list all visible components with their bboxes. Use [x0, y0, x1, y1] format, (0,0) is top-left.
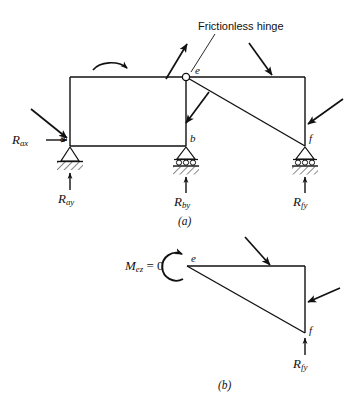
reaction-label-rfy-a: Rfy — [293, 195, 307, 210]
reaction-label-rax: Rax — [12, 133, 28, 148]
mez-symbol: M — [125, 258, 136, 273]
rfy-subscript-a: fy — [301, 200, 307, 210]
caption-a: (a) — [178, 216, 191, 228]
moment-arc-ez — [162, 253, 183, 281]
applied-moment-couple-arc — [93, 63, 127, 70]
rby-symbol: R — [174, 194, 182, 209]
roller-support-b — [173, 147, 199, 175]
rby-subscript: by — [182, 200, 190, 210]
frictionless-hinge-icon — [182, 73, 189, 80]
point-label-b: b — [190, 133, 196, 144]
ray-subscript: ay — [66, 197, 74, 207]
point-label-a: a — [60, 133, 66, 144]
load-arrow-b-right — [308, 288, 340, 302]
frictionless-hinge-label: Frictionless hinge — [198, 21, 284, 32]
rax-subscript: ax — [20, 138, 28, 148]
point-label-e-b: e — [191, 253, 196, 264]
mez-value: = 0 — [146, 258, 163, 273]
diagram-b-structure — [187, 266, 305, 333]
rfy-symbol-a: R — [293, 194, 301, 209]
reaction-label-rby: Rby — [174, 195, 190, 210]
point-label-f-a: f — [309, 133, 312, 144]
load-arrow-b-top — [245, 237, 270, 265]
roller-support-f — [292, 147, 318, 175]
point-label-e-a: e — [195, 65, 200, 76]
caption-b: (b) — [218, 380, 231, 392]
figure-page: Frictionless hinge e a b f Rax Ray Rby R… — [0, 0, 357, 403]
rax-symbol: R — [12, 132, 20, 147]
load-arrow-vertical-member — [186, 92, 209, 123]
load-arrow-right-edge — [308, 99, 343, 124]
member-b-diagonal — [187, 266, 305, 333]
rfy-subscript-b: fy — [301, 362, 307, 372]
moment-label-mez: Mez = 0 — [125, 259, 164, 274]
diagram-a-structure — [70, 77, 305, 146]
ray-symbol: R — [58, 191, 66, 206]
rfy-symbol-b: R — [293, 356, 301, 371]
member-diagonal-ef — [186, 77, 305, 146]
reaction-label-ray: Ray — [58, 192, 74, 207]
reaction-label-rfy-b: Rfy — [293, 357, 307, 372]
pin-support-a — [57, 147, 83, 170]
point-label-f-b: f — [309, 325, 312, 336]
load-arrow-top-right — [249, 43, 272, 75]
